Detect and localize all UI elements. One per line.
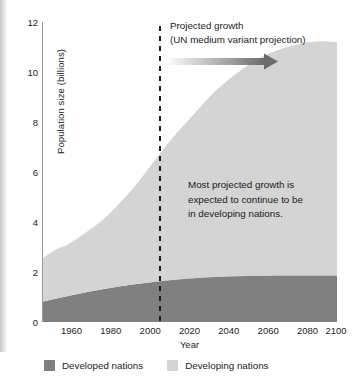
legend-label-developed: Developed nations <box>62 360 143 371</box>
x-tick-2040: 2040 <box>218 326 239 336</box>
population-projection-figure: 12 10 8 6 4 2 0 Population size (billion… <box>0 0 356 385</box>
area-developing-nations-fill <box>42 41 337 301</box>
y-tick-4: 4 <box>12 218 38 228</box>
legend-swatch-developed <box>44 360 55 371</box>
x-tick-1960: 1960 <box>61 326 82 336</box>
x-tick-2080: 2080 <box>297 326 318 336</box>
developing-growth-line-1: Most projected growth is <box>188 178 303 193</box>
x-tick-2100: 2100 <box>325 326 346 336</box>
projected-growth-line-2: (UN medium variant projection) <box>170 33 306 47</box>
y-tick-12: 12 <box>12 18 38 28</box>
developing-growth-line-2: expected to continue to be <box>188 193 303 208</box>
y-tick-6: 6 <box>12 168 38 178</box>
scan-edge-shadow <box>0 0 7 352</box>
y-tick-8: 8 <box>12 118 38 128</box>
legend-item-developed: Developed nations <box>44 360 143 371</box>
plot-area <box>42 22 337 322</box>
projected-growth-annotation: Projected growth (UN medium variant proj… <box>170 19 306 46</box>
x-tick-2060: 2060 <box>258 326 279 336</box>
stacked-area-chart <box>42 22 337 322</box>
x-axis-label: Year <box>42 339 337 350</box>
chart-legend: Developed nations Developing nations <box>44 360 269 371</box>
developing-growth-line-3: in developing nations. <box>188 207 303 222</box>
projected-growth-line-1: Projected growth <box>170 19 306 33</box>
legend-label-developing: Developing nations <box>185 360 268 371</box>
y-axis-ticks: 12 10 8 6 4 2 0 <box>8 22 38 322</box>
y-tick-2: 2 <box>12 268 38 278</box>
legend-item-developing: Developing nations <box>167 360 268 371</box>
x-tick-2020: 2020 <box>179 326 200 336</box>
legend-swatch-developing <box>167 360 178 371</box>
y-tick-10: 10 <box>12 68 38 78</box>
developing-growth-annotation: Most projected growth is expected to con… <box>188 178 303 222</box>
x-tick-1980: 1980 <box>100 326 121 336</box>
y-tick-0: 0 <box>12 318 38 328</box>
x-tick-2000: 2000 <box>140 326 161 336</box>
